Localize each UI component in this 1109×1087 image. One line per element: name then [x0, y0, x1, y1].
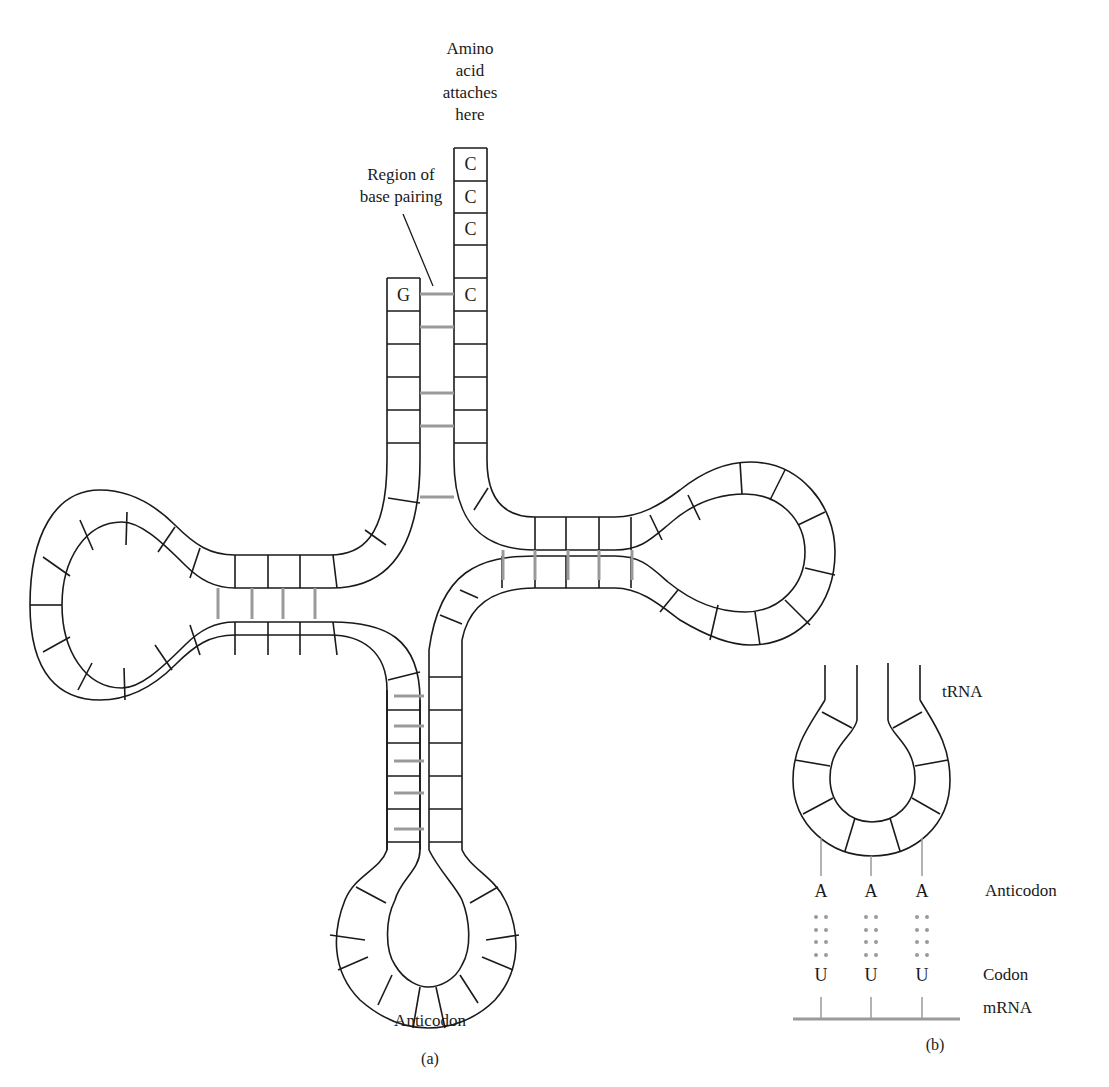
caption-a: (a) — [400, 1048, 460, 1070]
trna-diagram — [0, 0, 1109, 1087]
codon-base-2: U — [861, 964, 881, 986]
panel-b-trna-loop — [793, 663, 950, 856]
trna-label: tRNA — [942, 681, 983, 703]
codon-label: Codon — [983, 964, 1028, 986]
base-pairing-pointer — [403, 214, 433, 286]
amino-acid-label: Amino acid attaches here — [430, 38, 510, 126]
acceptor-base-2: C — [454, 186, 487, 208]
anticodon-label-b: Anticodon — [985, 880, 1057, 902]
base-pairing-label: Region of base pairing — [336, 164, 466, 208]
codon-base-1: U — [811, 964, 831, 986]
anticodon-base-2: A — [861, 880, 881, 902]
anticodon-base-1: A — [811, 880, 831, 902]
acceptor-base-5: C — [454, 284, 487, 306]
acceptor-base-3: C — [454, 218, 487, 240]
anticodon-base-3: A — [912, 880, 932, 902]
hydrogen-bonds — [218, 294, 632, 829]
acceptor-base-1: C — [454, 153, 487, 175]
anticodon-label-a: Anticodon — [360, 1010, 500, 1032]
codon-base-3: U — [912, 964, 932, 986]
hydrogen-bond-dots — [814, 915, 929, 957]
acceptor-5prime-base: G — [387, 284, 420, 306]
mrna-label: mRNA — [983, 997, 1032, 1019]
caption-b: (b) — [910, 1034, 960, 1056]
